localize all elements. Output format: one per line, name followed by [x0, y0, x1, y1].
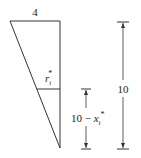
- triangle-cross-section-diagram: 4 ri* 10 − xi* 10: [0, 0, 141, 158]
- partial-height-label: 10 − xi*: [71, 110, 105, 127]
- arrow-up-icon: [84, 90, 88, 95]
- top-width-label: 4: [32, 6, 38, 18]
- arrow-down-icon: [121, 143, 125, 148]
- arrow-down-icon: [84, 143, 88, 148]
- total-height-label: 10: [118, 83, 130, 95]
- triangle-shape: [10, 21, 60, 148]
- arrow-up-icon: [121, 23, 125, 28]
- radius-label: ri*: [45, 69, 52, 87]
